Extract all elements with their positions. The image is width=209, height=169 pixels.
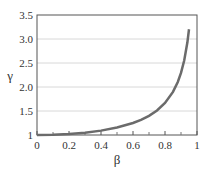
x-tick-label: 0.2: [62, 139, 76, 151]
x-tick-label: 0.4: [94, 139, 108, 151]
grid-lines: [37, 39, 197, 111]
x-axis-label: β: [114, 152, 121, 167]
y-tick-label: 1.5: [19, 105, 33, 117]
y-tick-label: 3.5: [19, 9, 33, 21]
gamma-curve: [37, 29, 189, 135]
x-tick-label: 0.6: [126, 139, 140, 151]
y-tick-label: 3.0: [19, 33, 33, 45]
y-axis-ticks: 11.52.02.53.03.5: [19, 9, 33, 141]
y-tick-label: 2.0: [19, 81, 33, 93]
y-tick-label: 1: [28, 129, 34, 141]
gamma-vs-beta-chart: 00.20.40.60.81 11.52.02.53.03.5 β γ: [0, 0, 209, 169]
plot-frame: [37, 15, 197, 135]
x-tick-label: 0.8: [158, 139, 172, 151]
y-axis-label: γ: [6, 68, 13, 83]
y-tick-label: 2.5: [19, 57, 33, 69]
x-tick-label: 0: [34, 139, 40, 151]
x-tick-label: 1: [194, 139, 200, 151]
